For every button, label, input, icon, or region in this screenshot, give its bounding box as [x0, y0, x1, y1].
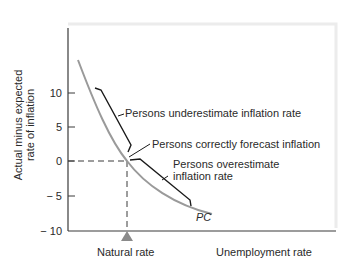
annotation-correct: Persons correctly forecast inflation [152, 138, 320, 150]
tick-label-0: 0 [32, 155, 62, 167]
background-frame [68, 24, 336, 228]
pc-curve-label: PC [196, 211, 211, 223]
tick-label-10: 10 [32, 87, 62, 99]
underestimate-leader [118, 114, 124, 116]
phillips-curve [78, 60, 212, 214]
x-axis-label: Unemployment rate [216, 246, 312, 258]
correct-leader [129, 144, 150, 157]
tick-label-m5: − 5 [32, 190, 62, 202]
annotation-overestimate-line1: Persons overestimate [173, 158, 279, 170]
annotation-overestimate-line2: inflation rate [173, 170, 233, 182]
natural-rate-marker-icon [121, 231, 133, 241]
annotation-underestimate: Persons underestimate inflation rate [125, 107, 301, 119]
underestimate-bracket [95, 88, 131, 152]
natural-rate-label: Natural rate [97, 246, 154, 258]
y-axis-label-line1: Actual minus expected [12, 70, 24, 181]
tick-label-m10: − 10 [32, 225, 62, 237]
tick-label-5: 5 [32, 121, 62, 133]
